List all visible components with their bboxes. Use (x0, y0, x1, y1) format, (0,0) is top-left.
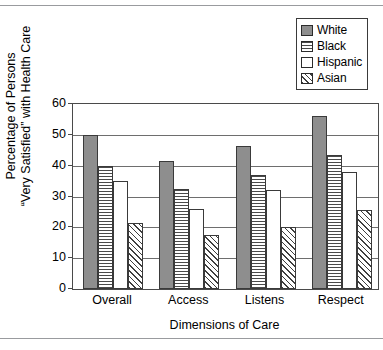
x-axis-title: Dimensions of Care (72, 318, 377, 332)
bar-respect-white (312, 116, 327, 289)
bar-access-white (159, 161, 174, 289)
bar-listens-black (251, 175, 266, 289)
bar-listens-asian (281, 227, 296, 289)
bar-overall-white (83, 135, 98, 289)
legend-swatch-white-icon (301, 25, 313, 36)
bar-access-black (174, 189, 189, 289)
bar-overall-hispanic (113, 181, 128, 289)
bar-respect-black (327, 155, 342, 289)
y-tick-label-0: 0 (40, 282, 66, 294)
bar-group-respect (312, 104, 372, 289)
x-tick-label-listens: Listens (245, 293, 285, 307)
legend-item-hispanic: Hispanic (301, 54, 362, 70)
bar-listens-white (236, 146, 251, 289)
bar-group-overall (83, 104, 143, 289)
legend-label-black: Black (317, 40, 346, 52)
x-tick-label-respect: Respect (318, 293, 364, 307)
legend-item-white: White (301, 22, 362, 38)
y-tick-label-20: 20 (40, 220, 66, 232)
bars-layer (73, 104, 378, 289)
x-tick-label-overall: Overall (92, 293, 132, 307)
legend-swatch-black-icon (301, 41, 313, 52)
bar-access-asian (204, 235, 219, 289)
y-tick-label-40: 40 (40, 159, 66, 171)
legend-item-black: Black (301, 38, 362, 54)
figure: White Black Hispanic Asian Percentage of… (0, 0, 383, 350)
top-divider-rule (0, 5, 383, 6)
bar-group-access (159, 104, 219, 289)
x-tick-label-access: Access (168, 293, 208, 307)
y-axis-title: Percentage of Persons “Very Satisfied” w… (4, 21, 34, 211)
legend-label-asian: Asian (317, 72, 347, 84)
legend-item-asian: Asian (301, 70, 362, 86)
bar-access-hispanic (189, 209, 204, 289)
y-tick-label-60: 60 (40, 97, 66, 109)
legend-swatch-hispanic-icon (301, 57, 313, 68)
y-axis-title-line1: Percentage of Persons (4, 21, 19, 211)
y-tick-label-50: 50 (40, 128, 66, 140)
bar-overall-black (98, 166, 113, 289)
bottom-divider-rule (0, 338, 383, 339)
bar-group-listens (236, 104, 296, 289)
plot-area (72, 103, 379, 290)
y-axis-title-line2: “Very Satisfied” with Health Care (19, 21, 34, 211)
chart-legend: White Black Hispanic Asian (296, 18, 368, 90)
bar-respect-hispanic (342, 172, 357, 289)
legend-label-hispanic: Hispanic (317, 56, 362, 68)
y-axis-ticks: 0102030405060 (38, 103, 66, 288)
y-tick-label-30: 30 (40, 190, 66, 202)
x-axis-ticks: OverallAccessListensRespect (72, 293, 377, 311)
legend-label-white: White (317, 24, 347, 36)
y-tick-label-10: 10 (40, 251, 66, 263)
bar-respect-asian (357, 210, 372, 289)
bar-listens-hispanic (266, 190, 281, 289)
bar-overall-asian (128, 223, 143, 289)
legend-swatch-asian-icon (301, 73, 313, 84)
